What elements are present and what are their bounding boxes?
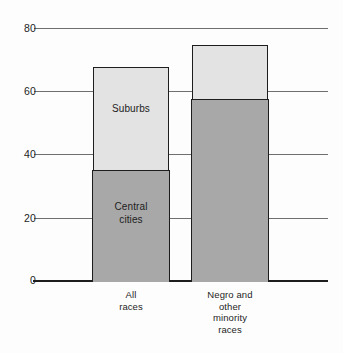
- axis-baseline-0: [33, 280, 328, 282]
- category-label-minority-races-line3: minority: [184, 312, 276, 324]
- segment-label-central-cities-line1: Central: [93, 201, 168, 214]
- category-label-minority-races-line2: other: [184, 301, 276, 313]
- gridline-60: [41, 91, 328, 92]
- category-label-minority-races-line4: races: [184, 324, 276, 336]
- ytick-label-80: 80: [0, 23, 36, 34]
- gridline-80: [41, 28, 328, 29]
- category-label-minority-races: Negro and other minority races: [184, 289, 276, 335]
- gridline-20: [41, 218, 328, 219]
- ytick-label-0: 0: [0, 275, 36, 286]
- category-label-minority-races-line1: Negro and: [184, 289, 276, 301]
- ytick-label-20: 20: [0, 213, 36, 224]
- bar-all-races: Suburbs Central cities: [93, 67, 169, 281]
- segment-label-suburbs: Suburbs: [94, 103, 168, 116]
- stacked-bar-chart: 80 60 40 20 0 Suburbs Central cities All…: [0, 0, 343, 353]
- ytick-label-60: 60: [0, 86, 36, 97]
- bar-minority-races: [192, 45, 268, 281]
- ytick-label-40: 40: [0, 149, 36, 160]
- category-label-all-races: All races: [93, 289, 169, 312]
- bar-all-races-central-cities-segment: Central cities: [92, 170, 169, 282]
- segment-label-central-cities-line2: cities: [93, 214, 168, 227]
- bar-minority-races-central-cities-segment: [191, 99, 268, 282]
- category-label-all-races-line1: All: [93, 289, 169, 301]
- category-label-all-races-line2: races: [93, 301, 169, 313]
- gridline-40: [41, 154, 328, 155]
